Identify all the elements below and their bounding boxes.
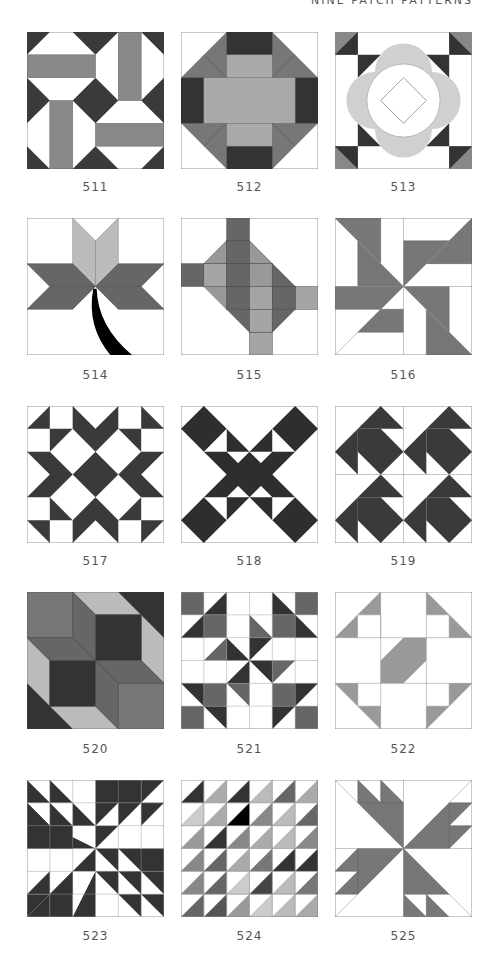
quilt-block-514 [27, 218, 164, 355]
block-number-516: 516 [335, 368, 472, 382]
block-number-511: 511 [27, 180, 164, 194]
block-number-525: 525 [335, 929, 472, 943]
block-number-514: 514 [27, 368, 164, 382]
quilt-block-523 [27, 780, 164, 917]
block-number-518: 518 [181, 554, 318, 568]
quilt-block-515 [181, 218, 318, 355]
quilt-block-525 [335, 780, 472, 917]
block-number-524: 524 [181, 929, 318, 943]
quilt-block-519 [335, 406, 472, 543]
quilt-block-512 [181, 32, 318, 169]
block-number-513: 513 [335, 180, 472, 194]
block-number-519: 519 [335, 554, 472, 568]
block-number-521: 521 [181, 742, 318, 756]
quilt-block-518 [181, 406, 318, 543]
quilt-block-521 [181, 592, 318, 729]
quilt-block-517 [27, 406, 164, 543]
page-header: NINE PATCH PATTERNS [311, 0, 473, 7]
quilt-block-511 [27, 32, 164, 169]
quilt-block-520 [27, 592, 164, 729]
block-number-523: 523 [27, 929, 164, 943]
quilt-block-513 [335, 32, 472, 169]
block-number-515: 515 [181, 368, 318, 382]
quilt-block-516 [335, 218, 472, 355]
block-number-517: 517 [27, 554, 164, 568]
quilt-block-522 [335, 592, 472, 729]
quilt-block-524 [181, 780, 318, 917]
block-number-512: 512 [181, 180, 318, 194]
block-number-520: 520 [27, 742, 164, 756]
block-number-522: 522 [335, 742, 472, 756]
